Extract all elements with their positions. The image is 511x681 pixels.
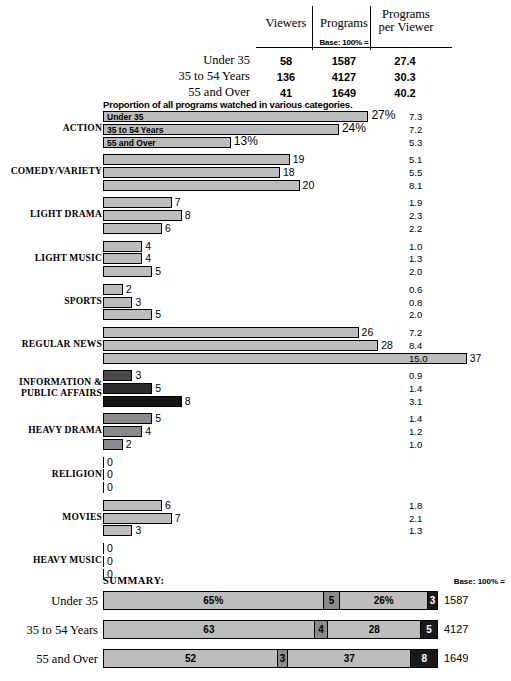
bar-value-label: 6: [165, 500, 171, 511]
table-row-label-35-54: 35 to 54 Years: [130, 69, 250, 84]
summary-row-total: 1587: [444, 591, 468, 610]
programs-per-viewer-value: 7.3: [409, 111, 449, 122]
category-label-information-public-affairs: INFORMATION &PUBLIC AFFAIRS: [10, 377, 102, 398]
bar-value-label: 20: [303, 180, 315, 191]
chart-note: Proportion of all programs watched in va…: [103, 99, 352, 110]
table-row-label-55-over: 55 and Over: [130, 85, 250, 100]
zero-bar-stub: [103, 556, 104, 567]
zero-bar-stub: [103, 469, 104, 480]
summary-segment-label: 28: [369, 624, 380, 635]
bar: [103, 284, 123, 295]
bar-value-label: 37: [470, 353, 482, 364]
bar-value-label: 24%: [342, 123, 366, 134]
programs-per-viewer-value: 1.0: [409, 241, 449, 252]
bar: [103, 340, 378, 351]
summary-row-label: 35 to 54 Years: [2, 623, 98, 638]
summary-segment-label: 37: [344, 653, 355, 664]
bar: [103, 370, 132, 381]
programs-per-viewer-value: 2.2: [409, 223, 449, 234]
category-label-heavy-drama: HEAVY DRAMA: [10, 425, 102, 435]
base-note-top: Base: 100% =: [316, 38, 372, 47]
summary-segment: 3: [427, 592, 437, 609]
bar-value-label: 28: [381, 340, 393, 351]
summary-stacked-bar: 523378: [103, 649, 438, 668]
bar-value-label: 5: [155, 266, 161, 277]
summary-segment-label: 5: [329, 595, 335, 606]
bar: [103, 309, 152, 320]
column-header-programs: Programs: [316, 17, 372, 30]
summary-row-total: 4127: [444, 620, 468, 639]
ppv-line-2: per Viewer: [374, 21, 438, 34]
bar: 35 to 54 Years: [103, 124, 339, 135]
category-label-comedy-variety: COMEDY/VARIETY: [10, 166, 102, 176]
bar: [103, 167, 280, 178]
programs-per-viewer-value: 0.8: [409, 297, 449, 308]
category-label-religion: RELIGION: [10, 469, 102, 479]
programs-per-viewer-value: 0.6: [409, 284, 449, 295]
zero-bar-stub: [103, 482, 104, 493]
bar-value-label: 18: [283, 167, 295, 178]
zero-bar-stub: [103, 543, 104, 554]
summary-segment: 26%: [339, 592, 426, 609]
header-rule: [256, 47, 452, 48]
bar: [103, 413, 152, 424]
bar-value-label: 5: [155, 309, 161, 320]
bar-value-label: 0: [107, 457, 113, 468]
summary-segment-label: 8: [421, 653, 427, 664]
bar-value-label: 2: [126, 284, 132, 295]
programs-per-viewer-value: 2.1: [409, 513, 449, 524]
summary-segment: 3: [277, 650, 287, 667]
summary-segment: 4: [314, 621, 327, 638]
summary-segment: 8: [410, 650, 437, 667]
bar: [103, 500, 162, 511]
summary-stacked-bar: 634285: [103, 620, 438, 639]
bar: [103, 396, 182, 407]
category-label-movies: MOVIES: [10, 512, 102, 522]
bar-inner-label: Under 35: [107, 112, 143, 123]
bar-value-label: 0: [107, 482, 113, 493]
category-label-action: ACTION: [10, 123, 102, 133]
bar-value-label: 5: [155, 383, 161, 394]
bar-value-label: 8: [185, 210, 191, 221]
programs-per-viewer-value: 2.3: [409, 210, 449, 221]
programs-per-viewer-value: 8.1: [409, 180, 449, 191]
summary-segment: 65%: [104, 592, 323, 609]
summary-segment-label: 4: [318, 624, 324, 635]
programs-per-viewer-value: 1.3: [409, 525, 449, 536]
programs-per-viewer-value: 1.2: [409, 426, 449, 437]
programs-per-viewer-value: 7.2: [409, 124, 449, 135]
bar: [103, 513, 172, 524]
bar-value-label: 0: [107, 469, 113, 480]
summary-segment: 63: [104, 621, 314, 638]
column-header-programs-per-viewer: Programs per Viewer: [374, 8, 438, 34]
cell-viewers-under-35: 58: [258, 55, 314, 67]
chart-page: Viewers Programs Programs per Viewer Bas…: [0, 0, 511, 681]
programs-per-viewer-value: 5.5: [409, 167, 449, 178]
summary-segment: 5: [420, 621, 437, 638]
summary-segment-label: 26%: [374, 595, 394, 606]
bar: [103, 297, 132, 308]
bar: [103, 223, 162, 234]
bar-inner-label: 35 to 54 Years: [107, 125, 164, 136]
summary-row-total: 1649: [444, 649, 468, 668]
zero-bar-stub: [103, 457, 104, 468]
cell-programs-55-over: 1649: [316, 87, 372, 99]
category-label-light-drama: LIGHT DRAMA: [10, 209, 102, 219]
column-header-viewers: Viewers: [258, 17, 314, 30]
summary-segment-label: 3: [430, 595, 436, 606]
programs-per-viewer-value: 5.1: [409, 154, 449, 165]
programs-per-viewer-value: 2.0: [409, 266, 449, 277]
programs-per-viewer-value: 7.2: [409, 327, 449, 338]
summary-stacked-bar: 65%526%3: [103, 591, 438, 610]
programs-per-viewer-value: 3.1: [409, 396, 449, 407]
programs-per-viewer-value: 8.4: [409, 340, 449, 351]
bar-value-label: 13%: [234, 136, 258, 147]
programs-per-viewer-value: 1.4: [409, 413, 449, 424]
summary-segment-label: 63: [203, 624, 214, 635]
bar-value-label: 3: [135, 370, 141, 381]
bar-value-label: 0: [107, 556, 113, 567]
summary-base-note: Base: 100% =: [454, 577, 505, 586]
category-label-line-2: PUBLIC AFFAIRS: [10, 388, 102, 399]
programs-per-viewer-value: 5.3: [409, 137, 449, 148]
cell-programs-35-54: 4127: [316, 71, 372, 83]
